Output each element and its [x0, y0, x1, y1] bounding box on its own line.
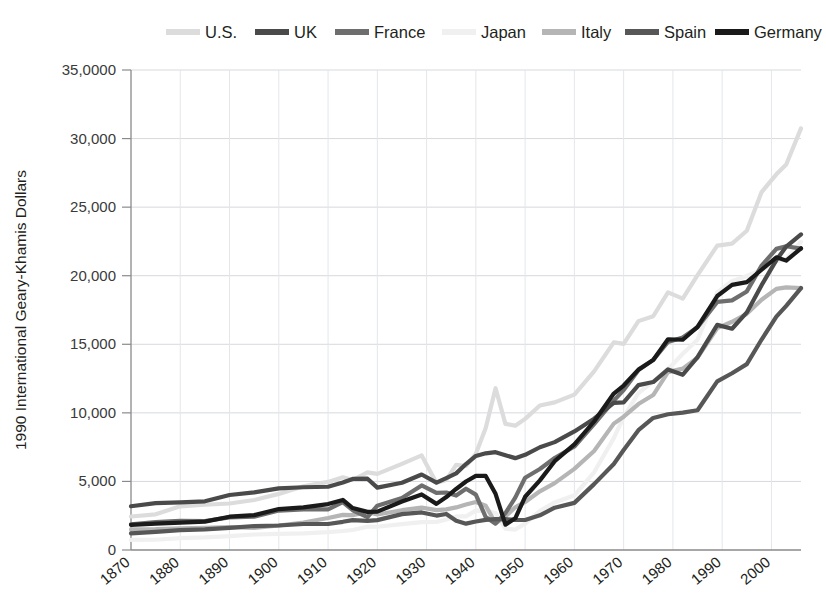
x-axis-tick-label: 1890 — [195, 553, 231, 587]
y-axis-tick-labels: 35,000030,00025,00020,00015,00010,0005,0… — [62, 61, 116, 558]
y-axis-tick-label: 20,000 — [70, 267, 116, 284]
x-axis-tick-label: 1940 — [441, 553, 477, 587]
x-axis-tick-label: 1950 — [491, 553, 527, 587]
x-axis-tick-labels: 1870188018901900191019201930194019501960… — [96, 553, 773, 587]
legend-label-germany[interactable]: Germany — [754, 23, 823, 41]
y-axis-tick-label: 30,000 — [70, 130, 116, 147]
y-axis-tick-label: 5,000 — [78, 472, 116, 489]
legend-label-spain[interactable]: Spain — [664, 23, 706, 41]
x-axis-tick-label: 1910 — [293, 553, 329, 587]
y-axis-title-label: 1990 International Geary-Khamis Dollars — [12, 170, 29, 450]
x-axis-tick-label: 2000 — [737, 553, 773, 587]
y-axis-tick-label: 0 — [108, 541, 116, 558]
gdp-per-capita-line-chart: U.S.UKFranceJapanItalySpainGermany 35,00… — [0, 0, 826, 614]
x-axis-tick-label: 1920 — [343, 553, 379, 587]
legend-label-japan[interactable]: Japan — [481, 23, 526, 41]
legend-label-uk[interactable]: UK — [294, 23, 317, 41]
series-line-germany — [131, 248, 801, 524]
y-axis-tick-label: 15,000 — [70, 335, 116, 352]
x-axis-tick-label: 1990 — [688, 553, 724, 587]
chart-container: U.S.UKFranceJapanItalySpainGermany 35,00… — [0, 0, 826, 614]
x-axis-tick-label: 1960 — [540, 553, 576, 587]
legend-label-us[interactable]: U.S. — [205, 23, 237, 41]
x-axis-tick-label: 1880 — [146, 553, 182, 587]
grid-lines — [131, 70, 801, 550]
axes — [122, 70, 801, 550]
legend-label-france[interactable]: France — [374, 23, 425, 41]
legend: U.S.UKFranceJapanItalySpainGermany — [166, 23, 823, 41]
y-axis-tick-label: 35,0000 — [62, 61, 116, 78]
y-axis-tick-label: 10,000 — [70, 404, 116, 421]
y-axis-tick-label: 25,000 — [70, 198, 116, 215]
x-axis-tick-label: 1930 — [392, 553, 428, 587]
y-axis-title: 1990 International Geary-Khamis Dollars — [12, 170, 29, 450]
plot-series — [131, 128, 801, 540]
x-axis-tick-label: 1870 — [96, 553, 132, 587]
legend-label-italy[interactable]: Italy — [581, 23, 612, 41]
x-axis-tick-label: 1900 — [244, 553, 280, 587]
x-axis-tick-label: 1970 — [589, 553, 625, 587]
series-line-uk — [131, 234, 801, 506]
x-axis-tick-label: 1980 — [638, 553, 674, 587]
